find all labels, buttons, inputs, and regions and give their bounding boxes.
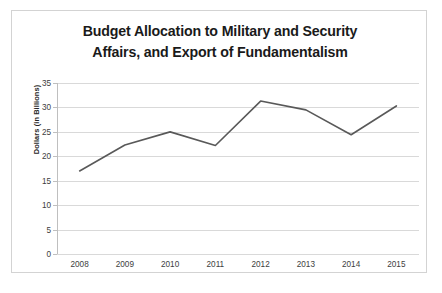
chart-title-line-2: Affairs, and Export of Fundamentalism (32, 42, 408, 63)
plot-frame: 35302520151050 2008200920102011201220132… (57, 83, 419, 254)
series-polyline (80, 101, 397, 171)
data-series-line (57, 83, 419, 254)
chart-title: Budget Allocation to Military and Securi… (32, 21, 408, 62)
y-tick-label: 30 (42, 103, 51, 112)
y-tick-label: 20 (42, 152, 51, 161)
x-tick-label: 2010 (161, 260, 179, 269)
plot-area: 35302520151050 2008200920102011201220132… (57, 83, 419, 254)
x-tick-label: 2012 (252, 260, 270, 269)
y-tick-label: 0 (46, 250, 51, 259)
x-tick-label: 2014 (342, 260, 360, 269)
x-tick-label: 2013 (297, 260, 315, 269)
x-tick-label: 2015 (387, 260, 405, 269)
x-tick-label: 2009 (116, 260, 134, 269)
x-tick-label: 2011 (207, 260, 225, 269)
y-tick-label: 10 (42, 201, 51, 210)
chart-container: Budget Allocation to Military and Securi… (11, 10, 427, 273)
y-tick-label: 25 (42, 127, 51, 136)
x-tick-label: 2008 (71, 260, 89, 269)
gridline (57, 254, 419, 255)
y-tick-mark (53, 254, 57, 255)
y-tick-label: 15 (42, 176, 51, 185)
chart-title-line-1: Budget Allocation to Military and Securi… (32, 21, 408, 42)
y-axis-title: Dollars (in Billions) (32, 74, 41, 166)
y-tick-label: 35 (42, 79, 51, 88)
y-tick-label: 5 (46, 225, 51, 234)
